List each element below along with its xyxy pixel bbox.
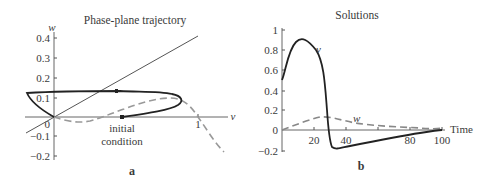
figure: Phase-plane trajectory 0.4 0.3 0.2 0.1 0… bbox=[0, 0, 493, 180]
panel-b-ytick: 1 bbox=[273, 24, 279, 36]
panel-a-title: Phase-plane trajectory bbox=[84, 14, 187, 27]
panel-a-label: a bbox=[129, 164, 135, 178]
direction-arrow-icon bbox=[115, 89, 118, 93]
panel-b-xtick: 20 bbox=[309, 134, 321, 146]
panel-b-ytick: 0 bbox=[273, 124, 279, 136]
panel-a-v-nullcline bbox=[26, 36, 198, 133]
panel-a-ytick: 0.2 bbox=[36, 72, 50, 84]
panel-a-ylabel: w bbox=[48, 21, 56, 33]
initial-condition-marker bbox=[120, 115, 124, 119]
panel-b-w-curve bbox=[282, 117, 442, 130]
panel-a-ytick: 0.1 bbox=[36, 92, 50, 104]
panel-b-v-curve bbox=[282, 39, 442, 148]
panel-b-xlabel: Time bbox=[450, 123, 473, 135]
panel-b-v-label: v bbox=[316, 43, 321, 55]
panel-b-ytick: −0.2 bbox=[258, 145, 278, 157]
panel-b-title: Solutions bbox=[335, 9, 379, 21]
panel-b: Solutions 1 0.8 0.6 0.4 0.2 0 −0.2 20 40… bbox=[258, 9, 473, 173]
panel-a-ytick: −0.2 bbox=[30, 150, 50, 162]
panel-b-ytick: 0.6 bbox=[264, 64, 278, 76]
panel-a: Phase-plane trajectory 0.4 0.3 0.2 0.1 0… bbox=[25, 14, 236, 178]
panel-b-xtick: 40 bbox=[341, 134, 353, 146]
panel-b-ytick: 0.4 bbox=[264, 85, 278, 97]
panel-a-ytick: 0.4 bbox=[36, 32, 50, 44]
panel-b-w-label: w bbox=[353, 112, 361, 124]
annotation-line-2: condition bbox=[101, 135, 143, 147]
panel-b-xtick: 100 bbox=[434, 134, 451, 146]
panel-b-ytick: 0.2 bbox=[264, 104, 278, 116]
panel-a-trajectory bbox=[27, 91, 181, 117]
panel-b-label: b bbox=[358, 159, 365, 173]
panel-a-xlabel: v bbox=[231, 110, 236, 122]
panel-a-ytick: 0.3 bbox=[36, 52, 50, 64]
annotation-line-1: initial bbox=[109, 122, 135, 134]
panel-b-ytick: 0.8 bbox=[264, 44, 278, 56]
panel-a-ytick: −0.1 bbox=[30, 130, 50, 142]
